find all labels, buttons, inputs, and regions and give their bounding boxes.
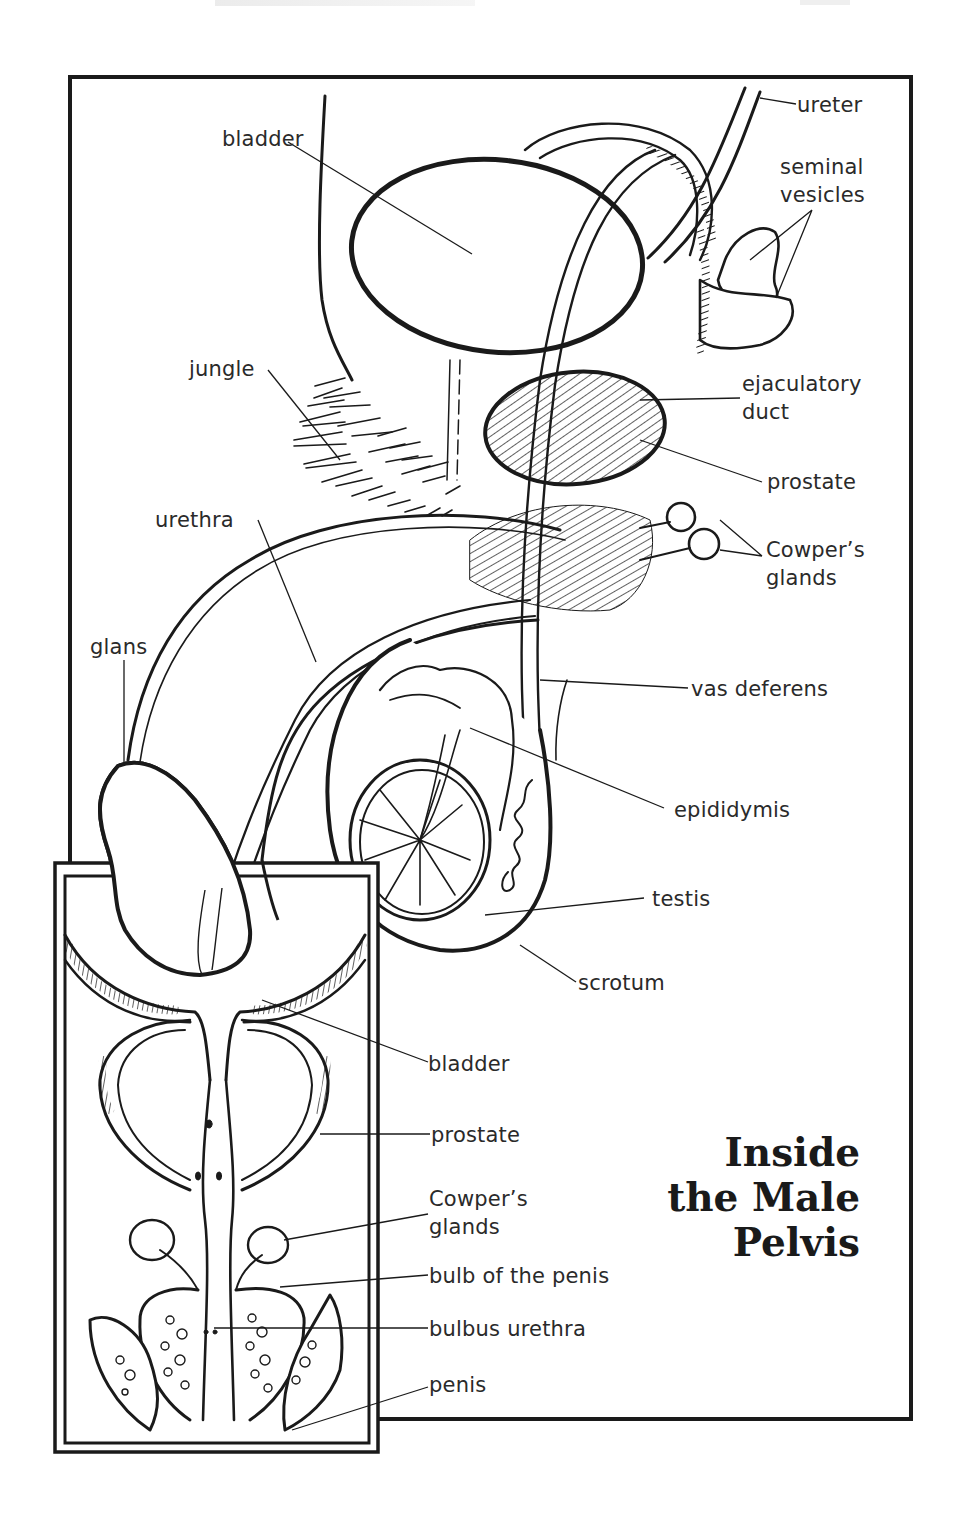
title-line-3: Pelvis: [667, 1220, 860, 1265]
label-urethra: urethra: [155, 507, 234, 533]
label-inset-prostate: prostate: [431, 1122, 520, 1148]
label-inset-cowpers-2: glands: [429, 1214, 500, 1240]
label-ejaculatory-duct-1: ejaculatory: [742, 371, 862, 397]
label-inset-bladder: bladder: [428, 1051, 510, 1077]
label-seminal-vesicles-1: seminal: [780, 154, 864, 180]
title-line-1: Inside: [667, 1130, 860, 1175]
label-scrotum: scrotum: [578, 970, 665, 996]
label-epididymis: epididymis: [674, 797, 790, 823]
label-cowpers-glands-1: Cowper’s: [766, 537, 865, 563]
label-prostate: prostate: [767, 469, 856, 495]
label-cowpers-glands-2: glands: [766, 565, 837, 591]
label-inset-cowpers-1: Cowper’s: [429, 1186, 528, 1212]
label-glans: glans: [90, 634, 147, 660]
label-ejaculatory-duct-2: duct: [742, 399, 789, 425]
label-bladder: bladder: [222, 126, 304, 152]
label-ureter: ureter: [797, 92, 862, 118]
label-inset-bulbus-urethra: bulbus urethra: [429, 1316, 586, 1342]
label-testis: testis: [652, 886, 710, 912]
title-line-2: the Male: [667, 1175, 860, 1220]
label-vas-deferens: vas deferens: [691, 676, 828, 702]
label-inset-penis: penis: [429, 1372, 486, 1398]
label-seminal-vesicles-2: vesicles: [780, 182, 865, 208]
page-title: Inside the Male Pelvis: [667, 1130, 860, 1265]
anatomy-drawing: [0, 0, 959, 1520]
label-jungle: jungle: [189, 356, 255, 382]
illustration-page: bladder ureter seminal vesicles jungle e…: [0, 0, 959, 1520]
label-inset-bulb-of-penis: bulb of the penis: [429, 1263, 609, 1289]
